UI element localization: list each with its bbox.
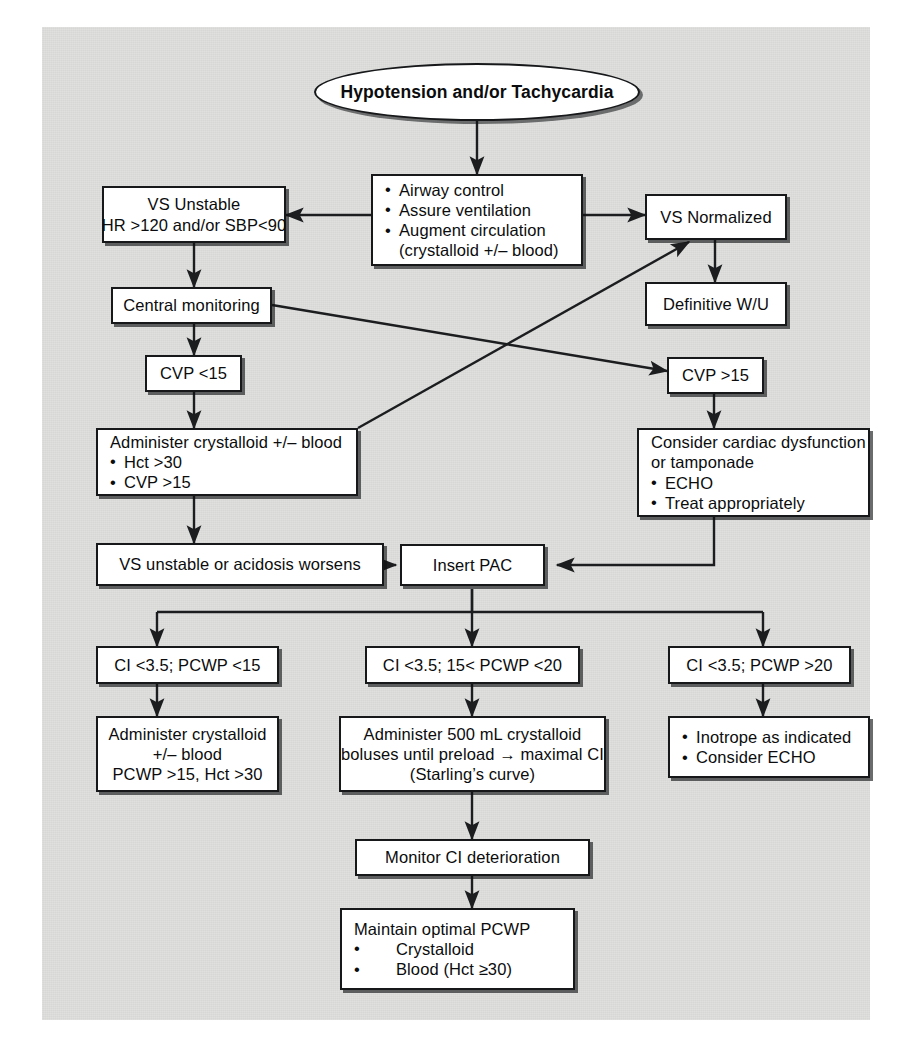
treat-pcwp-high-bullet-1: Inotrope as indicated: [682, 727, 860, 747]
node-cvp-high: CVP >15: [667, 357, 764, 394]
cvp-high-label: CVP >15: [682, 365, 749, 385]
treat-pcwp-low-line1: Administer crystalloid: [108, 724, 266, 744]
cardiac-dysfunction-line1: Consider cardiac dysfunction: [651, 432, 860, 452]
node-administer-crystalloid: Administer crystalloid +/– blood Hct >30…: [96, 428, 358, 496]
node-initial-measures: Airway control Assure ventilation Augmen…: [371, 174, 583, 266]
administer-crystalloid-line1: Administer crystalloid +/– blood: [110, 432, 348, 452]
edge-cardiac-to-pac: [557, 517, 714, 565]
cardiac-dysfunction-line2: or tamponade: [651, 452, 860, 472]
flowchart-canvas: Hypotension and/or Tachycardia Airway co…: [0, 0, 908, 1041]
node-vs-unstable: VS Unstable HR >120 and/or SBP<90: [102, 186, 286, 243]
node-treat-pcwp-high: Inotrope as indicated Consider ECHO: [668, 716, 870, 778]
node-cardiac-dysfunction: Consider cardiac dysfunction or tamponad…: [637, 428, 870, 517]
node-cvp-low: CVP <15: [145, 355, 242, 392]
node-branch-pcwp-low: CI <3.5; PCWP <15: [96, 646, 279, 684]
edge-pac-fork-bar: [157, 589, 763, 612]
node-vs-normalized: VS Normalized: [645, 194, 787, 240]
administer-crystalloid-bullet-1: Hct >30: [110, 452, 348, 472]
node-definitive-workup: Definitive W/U: [645, 282, 787, 326]
branch-pcwp-low-label: CI <3.5; PCWP <15: [114, 655, 260, 675]
treat-pcwp-mid-line2: boluses until preload → maximal CI: [341, 744, 604, 764]
treat-pcwp-low-line3: PCWP >15, Hct >30: [113, 764, 263, 784]
connector-layer: [0, 0, 908, 1041]
treat-pcwp-mid-line3: (Starling’s curve): [410, 764, 535, 784]
cardiac-dysfunction-bullet-2: Treat appropriately: [651, 493, 860, 513]
cvp-low-label: CVP <15: [160, 363, 227, 383]
vs-unstable-line2: HR >120 and/or SBP<90: [102, 215, 287, 235]
node-treat-pcwp-low: Administer crystalloid +/– blood PCWP >1…: [96, 716, 279, 792]
treat-pcwp-high-bullet-2: Consider ECHO: [682, 747, 860, 767]
definitive-workup-label: Definitive W/U: [663, 294, 769, 314]
insert-pac-label: Insert PAC: [433, 555, 513, 575]
node-vs-unstable-acidosis: VS unstable or acidosis worsens: [96, 543, 384, 586]
node-maintain-pcwp: Maintain optimal PCWP Crystalloid Blood …: [340, 908, 575, 990]
monitor-ci-label: Monitor CI deterioration: [385, 847, 560, 867]
initial-measure-3: Augment circulation: [385, 220, 573, 240]
node-start: Hypotension and/or Tachycardia: [314, 63, 640, 121]
central-monitoring-label: Central monitoring: [123, 295, 260, 315]
vs-unstable-line1: VS Unstable: [148, 194, 241, 214]
maintain-pcwp-line1: Maintain optimal PCWP: [354, 919, 565, 939]
edge-central-to-cvphigh: [272, 305, 667, 371]
branch-pcwp-high-label: CI <3.5; PCWP >20: [686, 655, 832, 675]
maintain-pcwp-bullet-2: Blood (Hct ≥30): [354, 959, 565, 979]
initial-measure-2: Assure ventilation: [385, 200, 573, 220]
node-insert-pac: Insert PAC: [400, 544, 545, 586]
edge-admin-to-vsnormalized: [358, 242, 689, 428]
treat-pcwp-low-line2: +/– blood: [153, 744, 222, 764]
node-treat-pcwp-mid: Administer 500 mL crystalloid boluses un…: [339, 716, 606, 792]
initial-measure-1: Airway control: [385, 180, 573, 200]
node-monitor-ci: Monitor CI deterioration: [355, 839, 590, 876]
treat-pcwp-mid-line1: Administer 500 mL crystalloid: [364, 724, 582, 744]
branch-pcwp-mid-label: CI <3.5; 15< PCWP <20: [383, 655, 562, 675]
cardiac-dysfunction-bullet-1: ECHO: [651, 473, 860, 493]
maintain-pcwp-bullet-1: Crystalloid: [354, 939, 565, 959]
vs-unstable-acidosis-label: VS unstable or acidosis worsens: [119, 554, 361, 574]
node-branch-pcwp-mid: CI <3.5; 15< PCWP <20: [365, 646, 580, 684]
node-central-monitoring: Central monitoring: [111, 287, 272, 324]
vs-normalized-label: VS Normalized: [660, 207, 771, 227]
node-start-label: Hypotension and/or Tachycardia: [340, 82, 613, 103]
initial-measure-sub: (crystalloid +/– blood): [385, 240, 573, 260]
administer-crystalloid-bullet-2: CVP >15: [110, 472, 348, 492]
node-branch-pcwp-high: CI <3.5; PCWP >20: [668, 646, 851, 684]
